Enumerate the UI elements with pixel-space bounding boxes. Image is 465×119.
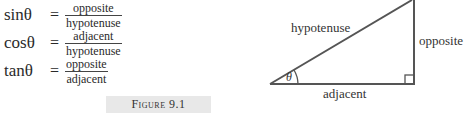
right-triangle-diagram bbox=[0, 0, 465, 119]
right-angle-marker-icon bbox=[405, 75, 414, 84]
opposite-label: opposite bbox=[419, 33, 463, 49]
angle-arc-icon bbox=[294, 70, 298, 84]
theta-label: θ bbox=[286, 70, 292, 85]
adjacent-label: adjacent bbox=[323, 86, 366, 102]
hypotenuse-label: hypotenuse bbox=[291, 20, 350, 36]
